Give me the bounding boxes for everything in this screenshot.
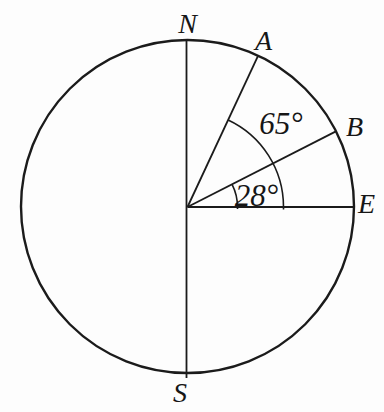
label-south: S (173, 377, 187, 408)
angle-label-65: 65° (259, 106, 302, 141)
label-point-a: A (253, 25, 273, 56)
compass-diagram-svg: N A B E S 65° 28° (0, 0, 384, 412)
angle-label-28: 28° (235, 178, 278, 213)
diagram-canvas: N A B E S 65° 28° (0, 0, 384, 412)
label-east: E (357, 188, 375, 219)
label-point-b: B (346, 111, 363, 142)
label-north: N (177, 8, 198, 39)
